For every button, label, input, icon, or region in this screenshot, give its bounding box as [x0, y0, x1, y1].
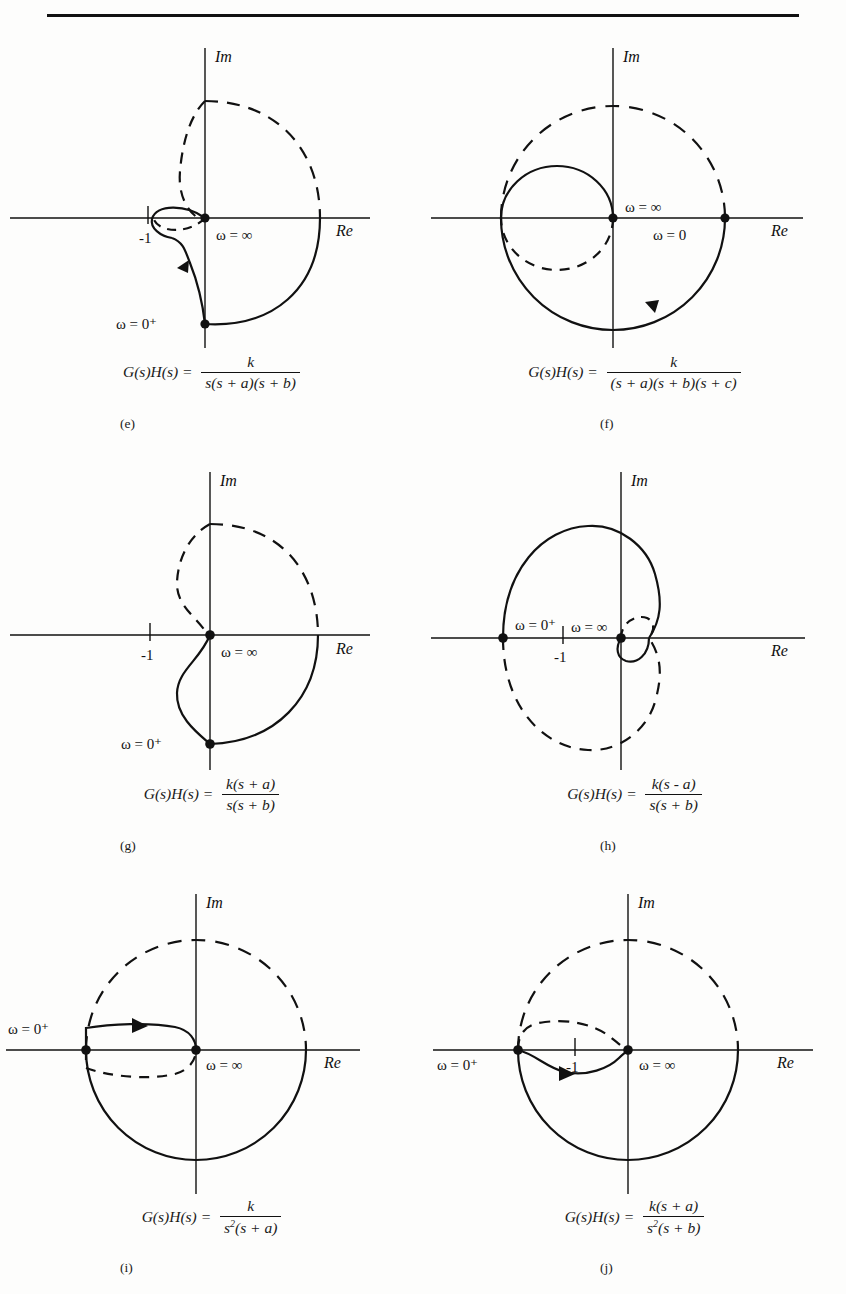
denominator-rest: (s + b) [658, 1219, 700, 1236]
numerator: k(s + a) [222, 775, 279, 794]
direction-arrow [132, 1018, 148, 1033]
small-loop-dashed [621, 617, 653, 638]
denominator: s(s + b) [645, 794, 701, 814]
small-loop-solid [152, 208, 205, 238]
infinite-arc-dashed [210, 524, 318, 635]
fraction: k s(s + a)(s + b) [201, 353, 300, 392]
omega-zero-label: ω = 0⁺ [437, 1057, 478, 1073]
infinite-arc-dashed [205, 101, 320, 218]
equation-h: G(s)H(s) = k(s - a) s(s + b) [423, 776, 846, 815]
re-axis-label: Re [776, 1054, 794, 1071]
equation-i: G(s)H(s) = k s2(s + a) [0, 1198, 423, 1238]
omega-zero-marker [200, 319, 209, 328]
re-axis-label: Re [335, 640, 353, 657]
omega-zero-marker [513, 1045, 523, 1055]
im-axis-label: Im [637, 894, 655, 911]
fraction: k s2(s + a) [220, 1197, 281, 1237]
denominator: s(s + a)(s + b) [201, 372, 300, 392]
equation-lhs: G(s)H(s) = [142, 1208, 211, 1225]
denominator: s(s + b) [222, 794, 279, 814]
equation-e: G(s)H(s) = k s(s + a)(s + b) [0, 354, 423, 393]
denominator: (s + a)(s + b)(s + c) [607, 372, 741, 392]
numerator: k [607, 353, 741, 372]
equation-lhs: G(s)H(s) = [565, 1208, 634, 1225]
panel-g: Im Re -1 ω = ∞ ω = 0⁺ G(s)H(s) = k(s + a… [0, 450, 423, 872]
header-rule [47, 14, 799, 17]
equation-lhs: G(s)H(s) = [123, 363, 192, 380]
panel-label-j: (j) [600, 1260, 613, 1276]
nyquist-plot-g: Im Re -1 ω = ∞ ω = 0⁺ [0, 450, 423, 780]
omega-infinity-marker [608, 213, 617, 222]
omega-zero-label: ω = 0⁺ [8, 1021, 49, 1037]
omega-zero-label: ω = 0 [653, 227, 686, 243]
equation-j: G(s)H(s) = k(s + a) s2(s + b) [423, 1198, 846, 1238]
equation-lhs: G(s)H(s) = [144, 785, 213, 802]
figure-row-1: Im Re -1 ω = ∞ ω = 0⁺ G(s)H(s) = k s(s +… [0, 28, 846, 450]
small-loop-solid [501, 166, 613, 218]
im-axis-label: Im [630, 472, 648, 489]
omega-infinity-label: ω = ∞ [221, 644, 258, 660]
omega-infinity-marker [623, 1045, 633, 1055]
denominator-rest: (s + a) [235, 1219, 277, 1236]
omega-zero-label: ω = 0⁺ [515, 617, 556, 633]
direction-arrow [645, 300, 659, 313]
nyquist-plot-f: Im Re ω = ∞ ω = 0 [423, 28, 846, 358]
minus-one-label: -1 [554, 649, 567, 665]
minus-one-label: -1 [566, 1059, 579, 1075]
upper-locus-dashed [177, 524, 210, 635]
outer-locus-dashed [503, 638, 660, 750]
equation-lhs: G(s)H(s) = [567, 785, 636, 802]
fraction: k(s - a) s(s + b) [645, 775, 701, 814]
re-axis-label: Re [335, 222, 353, 239]
upper-locus-dashed [180, 101, 205, 218]
panel-j: Im Re -1 ω = 0⁺ ω = ∞ G(s)H(s) = k(s + a… [423, 872, 846, 1294]
nyquist-plot-e: Im Re -1 ω = ∞ ω = 0⁺ [0, 28, 423, 358]
panel-i: Im Re ω = 0⁺ ω = ∞ G(s)H(s) = k s2(s + a… [0, 872, 423, 1294]
re-axis-label: Re [323, 1054, 341, 1071]
small-loop-dashed [154, 218, 205, 230]
denominator: s2(s + b) [643, 1216, 704, 1237]
fraction: k(s + a) s(s + b) [222, 775, 279, 814]
omega-infinity-label: ω = ∞ [639, 1057, 676, 1073]
lower-locus-solid [177, 635, 210, 744]
omega-infinity-marker [616, 633, 626, 643]
omega-infinity-marker [191, 1045, 201, 1055]
numerator: k [220, 1197, 281, 1216]
panel-f: Im Re ω = ∞ ω = 0 G(s)H(s) = k (s + a)(s… [423, 28, 846, 450]
lower-locus-solid [172, 238, 205, 324]
omega-zero-marker [205, 739, 215, 749]
direction-arrow [177, 260, 189, 273]
omega-zero-marker [81, 1045, 91, 1055]
figure-page: Im Re -1 ω = ∞ ω = 0⁺ G(s)H(s) = k s(s +… [0, 0, 846, 1294]
panel-label-f: (f) [600, 416, 614, 432]
panel-e: Im Re -1 ω = ∞ ω = 0⁺ G(s)H(s) = k s(s +… [0, 28, 423, 450]
nyquist-plot-j: Im Re -1 ω = 0⁺ ω = ∞ [423, 872, 846, 1202]
omega-infinity-label: ω = ∞ [216, 227, 253, 243]
omega-infinity-marker [200, 213, 209, 222]
minus-one-label: -1 [141, 647, 154, 663]
omega-zero-label: ω = 0⁺ [121, 736, 162, 752]
numerator: k(s + a) [643, 1197, 704, 1216]
im-axis-label: Im [214, 48, 232, 65]
inner-branch-dashed [518, 1021, 628, 1050]
panel-h: Im Re -1 ω = 0⁺ ω = ∞ G(s)H(s) = k(s - a… [423, 450, 846, 872]
figure-grid: Im Re -1 ω = ∞ ω = 0⁺ G(s)H(s) = k s(s +… [0, 28, 846, 1294]
minus-one-label: -1 [139, 230, 152, 246]
omega-zero-label: ω = 0⁺ [116, 316, 157, 332]
omega-infinity-marker [205, 630, 215, 640]
omega-infinity-label: ω = ∞ [625, 199, 662, 215]
figure-row-3: Im Re ω = 0⁺ ω = ∞ G(s)H(s) = k s2(s + a… [0, 872, 846, 1294]
panel-label-e: (e) [120, 416, 135, 432]
equation-lhs: G(s)H(s) = [528, 363, 597, 380]
numerator: k [201, 353, 300, 372]
re-axis-label: Re [770, 222, 788, 239]
inner-loop-dashed [86, 1050, 196, 1077]
figure-row-2: Im Re -1 ω = ∞ ω = 0⁺ G(s)H(s) = k(s + a… [0, 450, 846, 872]
omega-zero-marker [498, 633, 508, 643]
numerator: k(s - a) [645, 775, 701, 794]
nyquist-plot-i: Im Re ω = 0⁺ ω = ∞ [0, 872, 423, 1202]
re-axis-label: Re [770, 642, 788, 659]
nyquist-plot-h: Im Re -1 ω = 0⁺ ω = ∞ [423, 450, 846, 780]
small-loop-dashed [501, 218, 613, 270]
omega-infinity-label: ω = ∞ [206, 1057, 243, 1073]
